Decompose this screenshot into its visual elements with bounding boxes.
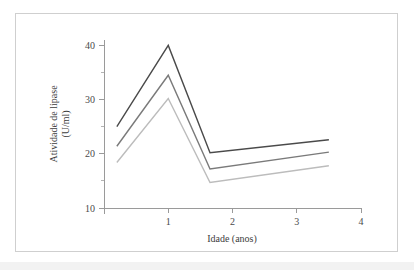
y-axis-title: Atividade de lipase bbox=[48, 85, 59, 163]
y-axis-title-units: (U/ml) bbox=[60, 110, 72, 137]
y-tick-label: 40 bbox=[85, 40, 95, 51]
series-line-light-gray-series bbox=[117, 99, 329, 183]
x-axis-ticks: 1234 bbox=[104, 202, 364, 227]
x-tick-label: 4 bbox=[359, 216, 364, 227]
line-chart: 10203040 1234 Idade (anos) Atividade de … bbox=[16, 14, 397, 251]
page-bottom-band bbox=[0, 262, 414, 270]
x-tick-label: 2 bbox=[230, 216, 235, 227]
y-tick-label: 20 bbox=[85, 148, 95, 159]
series-line-dark-gray-series bbox=[117, 45, 329, 152]
chart-axes bbox=[104, 40, 361, 208]
y-tick-label: 30 bbox=[85, 94, 95, 105]
y-axis-ticks: 10203040 bbox=[85, 40, 104, 214]
y-tick-label: 10 bbox=[85, 203, 95, 214]
series-lines bbox=[117, 45, 329, 182]
figure-frame: 10203040 1234 Idade (anos) Atividade de … bbox=[15, 13, 398, 252]
x-tick-label: 1 bbox=[166, 216, 171, 227]
x-axis-title: Idade (anos) bbox=[207, 233, 257, 245]
x-tick-label: 3 bbox=[294, 216, 299, 227]
